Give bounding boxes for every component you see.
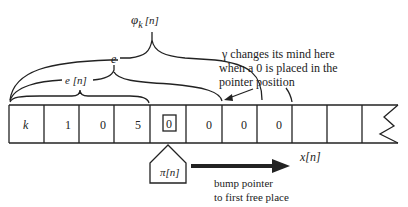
tape-cell-1: 1: [65, 118, 71, 132]
gamma-arrowhead: [224, 94, 233, 101]
tape-diagram: φk[n] e e [n] γ changes its mind here wh…: [0, 0, 408, 207]
tape-cell-2: 0: [100, 118, 106, 132]
tape-cell-0: k: [23, 118, 29, 132]
bump-arrowhead: [272, 159, 290, 173]
gamma-mark: [286, 88, 292, 102]
tape-cell-7: 0: [276, 118, 282, 132]
phi-label: φk[n]: [131, 12, 159, 30]
pi-n-label: π[n]: [160, 166, 180, 178]
tape-cell-3: 5: [135, 118, 141, 132]
e-n-label: e [n]: [65, 74, 87, 86]
gamma-arrow: [229, 89, 253, 98]
gamma-note: γ changes its mind here when a 0 is plac…: [219, 47, 341, 89]
x-n-label: x[n]: [299, 150, 321, 164]
tape-cell-6: 0: [241, 118, 247, 132]
e-n-brace: [10, 90, 149, 103]
bump-note: bump pointer to first free place: [214, 177, 289, 203]
tape-cell-4: 0: [166, 117, 172, 131]
tape-cell-5: 0: [206, 118, 212, 132]
e-label: e: [111, 52, 117, 66]
